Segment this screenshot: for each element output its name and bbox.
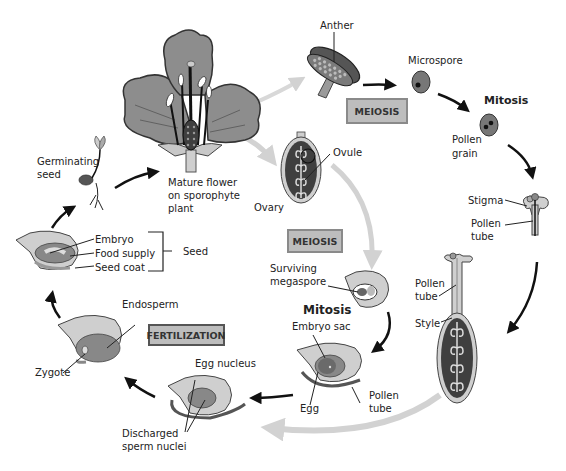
arrow-anther-to-microspore [363, 85, 392, 86]
arrow-pollen-to-stigma [508, 145, 532, 175]
pistil-illustration [437, 253, 477, 403]
label-pollen-tube-bottom-2: tube [369, 403, 392, 414]
label-germinating-2: seed [37, 169, 61, 180]
meiosis-box-male: MEIOSIS [347, 99, 407, 123]
arrow-seed-to-germination [52, 208, 72, 228]
germinating-seed-illustration [79, 136, 105, 210]
svg-text:MEIOSIS: MEIOSIS [293, 236, 338, 247]
svg-text:FERTILIZATION: FERTILIZATION [146, 330, 225, 341]
anther-illustration [303, 32, 365, 98]
embryo-sac-illustration [297, 335, 362, 405]
label-stigma: Stigma [468, 195, 503, 206]
label-ovule: Ovule [333, 147, 362, 158]
label-seed: Seed [183, 246, 208, 257]
arrow-stigma-to-style [510, 262, 537, 330]
label-pollen-tube-top-1: Pollen [471, 218, 501, 229]
label-sperm-nuclei-1: Discharged [122, 428, 178, 439]
label-megaspore-2: megaspore [270, 276, 326, 287]
stigma-illustration [505, 194, 548, 237]
label-pollen-tube-mid-2: tube [415, 291, 438, 302]
arrow-zygote-to-seed [52, 295, 60, 318]
arrow-megaspore-to-embryo-sac [375, 312, 390, 350]
label-style: Style [415, 318, 440, 329]
label-germinating-1: Germinating [37, 156, 99, 167]
label-anther: Anther [320, 20, 355, 31]
arrow-fertilization-to-zygote [128, 380, 155, 397]
pollen-grain-illustration [480, 114, 498, 136]
label-food-supply: Food supply [95, 248, 155, 259]
meiosis-box-female: MEIOSIS [288, 230, 342, 252]
arrow-embryo-sac-to-fertilization [254, 395, 293, 398]
label-endosperm: Endosperm [122, 299, 179, 310]
fertilization-box: FERTILIZATION [146, 325, 225, 345]
label-pollen-tube-mid-1: Pollen [415, 278, 445, 289]
label-sperm-nuclei-2: sperm nuclei [122, 441, 186, 452]
label-mature-flower-3: plant [168, 203, 194, 214]
label-pollen-grain-1: Pollen [452, 134, 482, 145]
arrow-germination-to-flower [115, 172, 155, 188]
label-embryo: Embryo [95, 234, 134, 245]
mature-flower-illustration [123, 30, 260, 172]
label-pollen-tube-top-2: tube [471, 231, 494, 242]
label-mitosis-female: Mitosis [303, 303, 351, 317]
surviving-megaspore-illustration [345, 271, 389, 307]
angiosperm-life-cycle-diagram: Mature flower on sporophyte plant Anther… [0, 0, 566, 471]
label-embryo-sac: Embryo sac [292, 321, 351, 332]
label-pollen-grain-2: grain [452, 148, 478, 159]
label-mature-flower-2: on sporophyte [168, 190, 240, 201]
zygote-endosperm-illustration [58, 315, 135, 373]
arrow-microspore-to-pollen [438, 94, 466, 109]
microspore-illustration [412, 71, 430, 93]
label-pollen-tube-bottom-1: Pollen [369, 390, 399, 401]
label-ovary: Ovary [254, 202, 284, 213]
fertilization-ovule-illustration [168, 375, 245, 432]
ovary-illustration [281, 132, 330, 203]
label-mitosis-male: Mitosis [484, 94, 529, 107]
svg-text:MEIOSIS: MEIOSIS [355, 106, 400, 117]
label-megaspore-1: Surviving [270, 263, 317, 274]
label-egg: Egg [300, 403, 319, 414]
label-mature-flower-1: Mature flower [168, 177, 238, 188]
label-microspore: Microspore [408, 55, 463, 66]
label-egg-nucleus: Egg nucleus [195, 358, 256, 369]
label-seed-coat: Seed coat [95, 262, 145, 273]
label-zygote: Zygote [35, 367, 70, 378]
